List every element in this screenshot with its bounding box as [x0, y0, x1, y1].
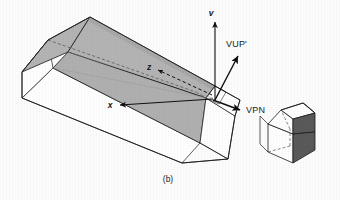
axis-v-label: v — [209, 8, 215, 18]
house-guide-line-upper — [260, 116, 268, 124]
house-group — [260, 103, 315, 163]
vector-vpn-label: VPN — [246, 105, 265, 115]
view-volume-figure: v x z VUP' VPN (b) — [0, 0, 340, 200]
view-volume-group — [22, 17, 240, 163]
figure-root: v x z VUP' VPN (b) — [0, 0, 340, 200]
house-right-wall-dark — [293, 132, 315, 163]
vector-vup-label: VUP' — [226, 39, 247, 49]
axis-z-label: z — [146, 62, 152, 72]
figure-caption: (b) — [163, 174, 174, 184]
house-guide-line-lower — [260, 144, 268, 152]
